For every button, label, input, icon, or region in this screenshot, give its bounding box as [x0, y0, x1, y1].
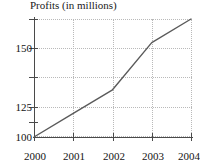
x-axis-label-2001: 2001 [54, 150, 94, 162]
y-axis-label-150: 150 [4, 42, 32, 54]
y-axis-label-100: 100 [4, 131, 32, 143]
y-tick-162_5 [29, 19, 38, 20]
gridline-vertical-2003 [152, 19, 153, 137]
x-axis-label-2003: 2003 [133, 150, 173, 162]
gridline-vertical-2004 [191, 19, 192, 137]
x-axis-label-2000: 2000 [15, 150, 55, 162]
gridline-vertical-2001 [73, 19, 74, 137]
y-axis-line [34, 17, 35, 139]
line-chart: Profits (in millions) 150 125 100 2000 2… [0, 0, 200, 168]
x-tick-2002 [113, 133, 114, 141]
y-tick-137_5 [29, 77, 38, 78]
x-axis-label-2002: 2002 [94, 150, 134, 162]
x-tick-2001 [73, 133, 74, 141]
x-axis-label-2004: 2004 [169, 150, 200, 162]
gridline-vertical-2002 [113, 19, 114, 137]
y-axis-label-125: 125 [4, 101, 32, 113]
x-tick-2004 [191, 133, 192, 141]
x-tick-2000 [34, 133, 35, 141]
x-tick-2003 [152, 133, 153, 141]
y-tick-112_5 [29, 122, 38, 123]
plot-area [34, 19, 192, 137]
chart-title: Profits (in millions) [30, 0, 190, 11]
